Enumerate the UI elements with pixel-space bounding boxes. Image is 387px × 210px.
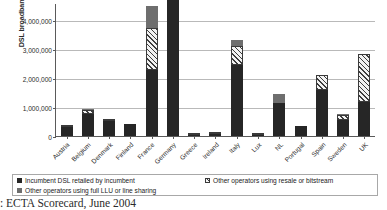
bar-group bbox=[141, 4, 162, 136]
legend-label-incumbent: Incumbent DSL retailed by incumbent bbox=[25, 177, 135, 184]
bar-segment-incumbent bbox=[124, 124, 136, 136]
llu-swatch-icon bbox=[17, 188, 22, 193]
bar-segment-incumbent bbox=[358, 102, 370, 136]
legend-label-resale: Other operators using resale or bitstrea… bbox=[213, 177, 333, 184]
x-tick-label: NL bbox=[273, 141, 284, 152]
x-tick-label: Austria bbox=[51, 141, 70, 160]
bar-group bbox=[290, 4, 311, 136]
stacked-bar bbox=[103, 119, 115, 136]
stacked-bar bbox=[358, 54, 370, 136]
x-axis-labels: AustriaBelgiumDenmarkFinlandFranceGerman… bbox=[55, 139, 375, 177]
stacked-bar bbox=[61, 125, 73, 136]
x-tick-label: UK bbox=[358, 141, 369, 152]
legend-item-llu: Other operators using full LLU or line s… bbox=[17, 187, 156, 194]
x-label-slot: Portugal bbox=[290, 139, 311, 177]
stacked-bar bbox=[295, 126, 307, 136]
bar-segment-resale bbox=[358, 54, 370, 103]
bar-segment-incumbent bbox=[231, 65, 243, 136]
stacked-bar bbox=[337, 114, 349, 136]
bar-segment-llu bbox=[273, 94, 285, 103]
bar-segment-resale bbox=[316, 75, 328, 90]
bar-segment-incumbent bbox=[273, 103, 285, 136]
x-label-slot: Lux bbox=[247, 139, 268, 177]
resale-swatch-icon bbox=[205, 178, 210, 183]
bar-group bbox=[332, 4, 353, 136]
legend-item-resale: Other operators using resale or bitstrea… bbox=[205, 177, 333, 184]
stacked-bar bbox=[231, 40, 243, 136]
bar-series-group bbox=[56, 4, 375, 136]
bar-group bbox=[162, 4, 183, 136]
bar-group bbox=[247, 4, 268, 136]
bar-group bbox=[99, 4, 120, 136]
bar-segment-resale bbox=[146, 28, 158, 71]
bar-segment-incumbent bbox=[316, 90, 328, 136]
stacked-bar bbox=[316, 75, 328, 137]
incumbent-swatch-icon bbox=[17, 178, 22, 183]
x-label-slot: UK bbox=[354, 139, 375, 177]
y-tick-label: 2,000,000 bbox=[23, 76, 56, 83]
bar-segment-llu bbox=[146, 6, 158, 28]
bar-group bbox=[184, 4, 205, 136]
y-tick-label: 3,000,000 bbox=[23, 47, 56, 54]
bar-segment-resale bbox=[231, 46, 243, 65]
bar-group bbox=[205, 4, 226, 136]
bar-group bbox=[311, 4, 332, 136]
x-label-slot: Italy bbox=[226, 139, 247, 177]
bar-segment-incumbent bbox=[82, 114, 94, 136]
bar-group bbox=[354, 4, 375, 136]
stacked-bar bbox=[146, 6, 158, 136]
stacked-bar bbox=[82, 109, 94, 136]
dsl-subscribers-chart: DSL broadband subscribers 01,000,0002,00… bbox=[0, 0, 387, 210]
bar-group bbox=[77, 4, 98, 136]
bar-group bbox=[56, 4, 77, 136]
x-tick-label: Lux bbox=[250, 141, 262, 153]
source-caption: : ECTA Scorecard, June 2004 bbox=[0, 197, 387, 209]
bar-segment-incumbent bbox=[61, 127, 73, 136]
bar-segment-incumbent bbox=[146, 70, 158, 136]
x-tick-label: France bbox=[136, 141, 155, 160]
y-tick-label: 4,000,000 bbox=[23, 18, 56, 25]
bar-segment-incumbent bbox=[167, 0, 179, 136]
bar-group bbox=[226, 4, 247, 136]
x-label-slot: Ireland bbox=[204, 139, 225, 177]
x-tick-label: Italy bbox=[228, 141, 242, 155]
y-tick-label: 1,000,000 bbox=[23, 105, 56, 112]
bar-segment-incumbent bbox=[295, 126, 307, 136]
plot-area: 01,000,0002,000,0003,000,0004,000,000 bbox=[55, 4, 375, 137]
x-label-slot: Finland bbox=[119, 139, 140, 177]
stacked-bar bbox=[167, 0, 179, 136]
bar-segment-incumbent bbox=[337, 120, 349, 136]
stacked-bar bbox=[273, 94, 285, 136]
x-tick-label: Ireland bbox=[201, 141, 220, 160]
bar-segment-llu bbox=[231, 40, 243, 47]
legend-label-llu: Other operators using full LLU or line s… bbox=[25, 187, 156, 194]
bar-segment-incumbent bbox=[103, 121, 115, 136]
x-tick-label: Spain bbox=[310, 141, 327, 158]
x-label-slot: Sweden bbox=[332, 139, 353, 177]
bar-group bbox=[269, 4, 290, 136]
legend-item-incumbent: Incumbent DSL retailed by incumbent bbox=[17, 177, 135, 184]
chart-legend: Incumbent DSL retailed by incumbent Othe… bbox=[12, 174, 378, 196]
bar-group bbox=[120, 4, 141, 136]
stacked-bar bbox=[124, 124, 136, 136]
x-label-slot: Greece bbox=[183, 139, 204, 177]
